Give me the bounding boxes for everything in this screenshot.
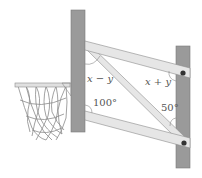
bottom-bolt: [181, 140, 186, 145]
hoop-rim: [15, 83, 70, 87]
label-x-minus-y: x − y: [87, 73, 113, 84]
label-100-degrees: 100°: [93, 97, 117, 108]
label-50-degrees: 50°: [161, 102, 179, 113]
top-bolt: [180, 70, 185, 75]
basketball-net: [18, 86, 67, 140]
hoop-bracket-diagram: x − y x + y 100° 50°: [0, 0, 202, 178]
label-x-plus-y: x + y: [145, 76, 171, 87]
left-post: [71, 10, 85, 132]
